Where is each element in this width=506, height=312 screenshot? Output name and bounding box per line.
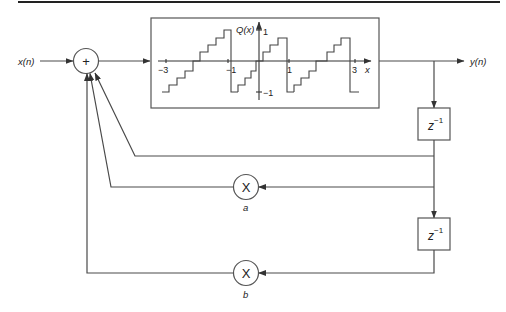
- quantizer-block: Q(x) 1 −1 −3 −1 1 3 x: [151, 18, 379, 108]
- delay-block-1: z−1: [418, 108, 450, 140]
- coefficient-a-label: a: [243, 202, 248, 213]
- delay-2-exponent: −1: [434, 226, 444, 235]
- multiply-icon: X: [242, 180, 251, 195]
- multiply-icon: X: [242, 266, 251, 281]
- y-tick-neg1: −1: [263, 88, 273, 98]
- delay-2-to-multiplier-b: [259, 250, 435, 273]
- multiplier-a: X: [234, 175, 259, 200]
- x-tick-1: 1: [287, 65, 292, 75]
- output-label: y(n): [469, 56, 486, 67]
- input-label: x(n): [17, 56, 34, 67]
- x-tick-neg3: −3: [158, 65, 168, 75]
- x-tick-3: 3: [352, 65, 357, 75]
- delay-2-z: z: [427, 229, 434, 243]
- delay-block-2: z−1: [418, 218, 450, 250]
- delay-1-exponent: −1: [434, 116, 444, 125]
- y-tick-1: 1: [263, 27, 268, 37]
- coefficient-b-label: b: [243, 289, 248, 300]
- delay-1-z: z: [427, 119, 434, 133]
- plus-icon: +: [82, 54, 90, 69]
- multiplier-b: X: [234, 261, 259, 286]
- block-diagram: x(n) + Q(x) 1 −1 −3 −1 1 3 x: [0, 0, 506, 312]
- summer-node: +: [74, 49, 99, 74]
- x-tick-neg1: −1: [226, 65, 236, 75]
- quantizer-y-label: Q(x): [236, 24, 254, 35]
